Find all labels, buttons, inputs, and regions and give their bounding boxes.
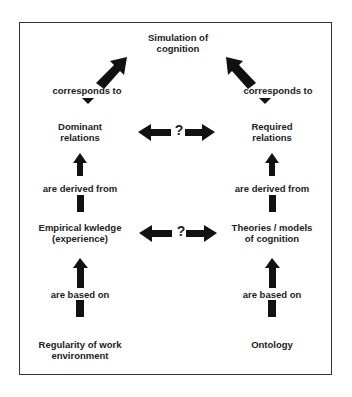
node-line: Required	[251, 121, 292, 132]
node-line: cognition	[148, 43, 208, 54]
node-line: Empirical kwledge	[39, 222, 122, 233]
arrows-layer	[0, 0, 352, 397]
question-mark-upper: ?	[175, 122, 184, 138]
node-line: Theories / models	[232, 222, 313, 233]
node-theories-models-of-cognition: Theories / models of cognition	[232, 222, 313, 244]
up-arrow-right-based-icon	[265, 258, 280, 317]
label-corresponds-left: corresponds to	[52, 85, 121, 96]
node-line: Ontology	[251, 339, 293, 350]
node-ontology: Ontology	[251, 339, 293, 350]
node-line: relations	[251, 132, 292, 143]
node-line: of cognition	[232, 233, 313, 244]
label-derived-right: are derived from	[235, 183, 309, 194]
node-simulation-of-cognition: Simulation of cognition	[148, 32, 208, 54]
node-line: relations	[58, 132, 102, 143]
triangle-down-icon	[259, 98, 271, 104]
label-based-right: are based on	[243, 289, 302, 300]
label-derived-left: are derived from	[43, 183, 117, 194]
node-line: Dominant	[58, 121, 102, 132]
node-line: Regularity of work	[39, 339, 122, 350]
node-empirical-knowledge: Empirical kwledge (experience)	[39, 222, 122, 244]
question-mark-lower: ?	[177, 223, 186, 239]
triangle-down-icon	[82, 98, 94, 104]
label-corresponds-right: corresponds to	[243, 85, 312, 96]
node-line: (experience)	[39, 233, 122, 244]
node-required-relations: Required relations	[251, 121, 292, 143]
node-line: environment	[39, 350, 122, 361]
node-regularity-of-work-environment: Regularity of work environment	[39, 339, 122, 361]
label-based-left: are based on	[51, 289, 110, 300]
up-arrow-left-based-icon	[73, 258, 88, 317]
node-dominant-relations: Dominant relations	[58, 121, 102, 143]
node-line: Simulation of	[148, 32, 208, 43]
